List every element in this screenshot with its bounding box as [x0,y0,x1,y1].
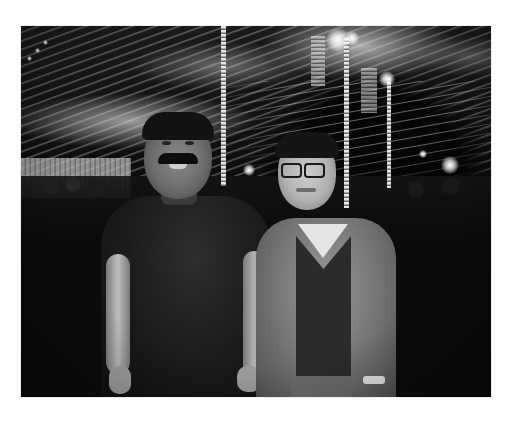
photograph [21,26,491,397]
vignette [21,26,491,397]
